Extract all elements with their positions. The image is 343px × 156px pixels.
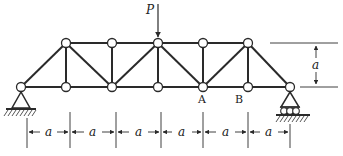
node <box>17 83 26 92</box>
panel-dimension-label: a <box>222 125 229 139</box>
truss-nodes <box>17 39 295 92</box>
truss-members <box>21 43 290 87</box>
roller-support-icon <box>276 92 310 122</box>
panel-dimension-label: a <box>178 125 185 139</box>
node <box>286 83 295 92</box>
height-dimension-label: a <box>312 58 319 72</box>
node <box>199 39 208 48</box>
node <box>154 83 163 92</box>
diagonal-member <box>158 43 203 87</box>
panel-dimension-label: a <box>45 125 52 139</box>
diagonal-member <box>66 43 112 87</box>
node <box>154 39 163 48</box>
diagonal-member <box>112 43 158 87</box>
right-end-diagonal <box>248 43 290 87</box>
panel-dimension-ticks <box>27 112 290 148</box>
node <box>108 83 117 92</box>
truss-diagram: P A B <box>0 0 343 156</box>
height-dimension <box>270 43 338 87</box>
pin-support-icon <box>4 92 36 116</box>
node-a <box>199 83 208 92</box>
load-label: P <box>145 3 155 17</box>
node-b <box>244 83 253 92</box>
node <box>62 39 71 48</box>
node <box>108 39 117 48</box>
panel-dimension-label: a <box>265 125 272 139</box>
panel-dimension-label: a <box>135 125 142 139</box>
diagonal-member <box>203 43 248 87</box>
point-label-b: B <box>235 93 243 106</box>
point-label-a: A <box>197 93 207 106</box>
left-end-diagonal <box>21 43 66 87</box>
node <box>244 39 253 48</box>
panel-dimension-label: a <box>89 125 96 139</box>
node <box>62 83 71 92</box>
